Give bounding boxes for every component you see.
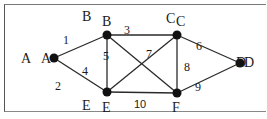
ghost-label-a: A	[21, 52, 31, 66]
ghost-label-b: B	[82, 10, 91, 24]
node-label-c: C	[176, 15, 185, 29]
node-e	[103, 88, 112, 97]
edge-e-f	[107, 92, 177, 93]
weight-e-f: 10	[134, 99, 146, 110]
weight-a-e: 4	[82, 65, 88, 77]
edge-a-e	[54, 58, 107, 92]
weight-a-b: 1	[63, 34, 69, 46]
ghost-label-e: E	[82, 99, 91, 113]
weight-c-f: 8	[184, 61, 190, 73]
node-label-d: D	[244, 56, 254, 70]
weight-b-e: 5	[103, 50, 109, 62]
node-label-b: B	[102, 15, 111, 29]
node-f	[173, 89, 182, 98]
weight-label-2: 2	[55, 80, 61, 92]
node-label-a: A	[41, 52, 51, 66]
node-label-f: F	[172, 101, 180, 115]
edge-c-d	[177, 35, 240, 63]
weight-d-f: 9	[195, 81, 201, 93]
node-label-e: E	[102, 101, 111, 115]
weight-c-d: 6	[196, 40, 202, 52]
weight-b-c: 3	[124, 24, 130, 36]
node-c	[173, 31, 182, 40]
node-b	[103, 31, 112, 40]
weight-e-c: 7	[146, 48, 152, 60]
edge-a-b	[54, 35, 107, 58]
ghost-label-c: C	[166, 12, 175, 26]
